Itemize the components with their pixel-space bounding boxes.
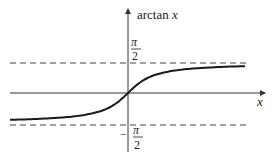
svg-text:2: 2	[132, 49, 138, 63]
svg-text:−: −	[120, 127, 127, 141]
arctan-plot: arctan x x π 2 − π 2	[0, 0, 275, 163]
x-axis-label: x	[256, 94, 263, 109]
lower-asymptote-label: − π 2	[120, 123, 143, 152]
svg-text:π: π	[131, 35, 138, 49]
svg-text:2: 2	[134, 138, 140, 152]
y-axis-label: arctan x	[137, 7, 178, 22]
svg-text:π: π	[133, 123, 140, 137]
upper-asymptote-label: π 2	[131, 35, 141, 63]
